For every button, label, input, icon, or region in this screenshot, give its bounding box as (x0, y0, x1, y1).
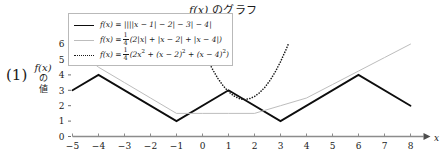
y-tick-label: 2 (59, 101, 65, 111)
x-tick-label: −3 (118, 141, 132, 151)
legend-lhs-3: f(x) = (100, 49, 122, 58)
legend-row-abs-average: f(x) =14(2|x| + |x − 2| + |x − 4|) (73, 32, 227, 47)
legend-body-3-mid2: + (x − 4) (186, 49, 223, 58)
x-tick-label: 7 (382, 141, 388, 151)
legend-row-nested-abs: f(x) = ||||x − 1| − 2| − 3| − 4| (73, 17, 227, 32)
x-tick-label: −2 (144, 141, 157, 151)
dotted-black-line-swatch (73, 49, 95, 61)
legend-body-3-pre: (2x (130, 49, 142, 58)
solid-gray-line-swatch (73, 34, 95, 46)
x-tick-label: 5 (330, 141, 336, 151)
y-tick-label: 3 (59, 86, 65, 96)
legend-formula-nested-abs: f(x) = ||||x − 1| − 2| − 3| − 4| (100, 21, 212, 29)
legend-fraction-3: 14 (123, 47, 129, 61)
x-tick-label: −4 (92, 141, 106, 151)
y-tick-label: 0 (59, 132, 65, 142)
x-axis-line (73, 133, 431, 140)
legend-row-quadratic-average: f(x) =14(2x2 + (x − 2)2 + (x − 4)2) (73, 47, 227, 62)
x-tick-label: 6 (356, 141, 362, 151)
y-tick-label: 5 (59, 55, 65, 65)
x-tick-label: 3 (278, 141, 284, 151)
legend-formula-quadratic-average: f(x) =14(2x2 + (x − 2)2 + (x − 4)2) (100, 48, 229, 62)
legend-fraction-2: 14 (123, 32, 129, 46)
legend-box: f(x) = ||||x − 1| − 2| − 3| − 4| f(x) =1… (68, 13, 233, 66)
x-tick-label: 0 (200, 141, 206, 151)
x-axis-letter: x (434, 133, 439, 143)
legend-formula-abs-average: f(x) =14(2|x| + |x − 2| + |x − 4|) (100, 33, 222, 47)
y-tick-label: 4 (59, 70, 65, 80)
legend-body-3-end: ) (226, 49, 229, 58)
legend-lhs-1: f(x) = (100, 20, 122, 29)
x-tick-label: 2 (252, 141, 258, 151)
figure-root: f(x) のグラフ (1) f(x) の 値 0123456 −5−4−3−2−… (0, 0, 446, 162)
x-tick-label: −1 (170, 141, 183, 151)
legend-body-1: ||||x − 1| − 2| − 3| − 4| (124, 20, 212, 29)
x-tick-label: 1 (226, 141, 232, 151)
legend-lhs-2: f(x) = (100, 34, 122, 43)
x-tick-label: −5 (66, 141, 80, 151)
legend-body-2: (2|x| + |x − 2| + |x − 4|) (130, 34, 222, 43)
x-tick-label: 4 (304, 141, 310, 151)
legend-body-3-mid: + (x − 2) (145, 49, 182, 58)
y-tick-label: 6 (59, 39, 65, 49)
y-tick-label: 1 (59, 116, 65, 126)
legend-fraction-denominator-3: 4 (123, 55, 129, 62)
solid-black-line-swatch (73, 19, 95, 31)
x-tick-label: 8 (408, 141, 414, 151)
